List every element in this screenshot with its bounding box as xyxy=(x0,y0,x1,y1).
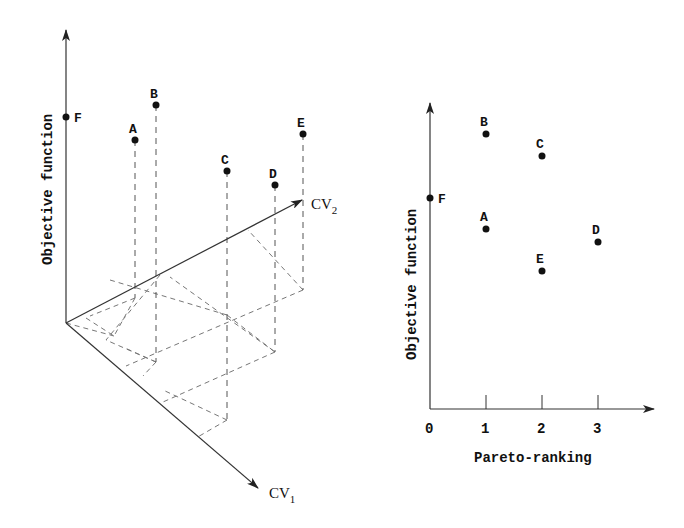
svg-text:B: B xyxy=(480,115,488,130)
cv2-axis xyxy=(66,200,302,323)
right-xlabel: Pareto-ranking xyxy=(474,450,592,466)
svg-text:D: D xyxy=(269,167,277,182)
point-F xyxy=(427,195,434,202)
tick-2: 2 xyxy=(537,421,545,437)
tick-1: 1 xyxy=(481,421,489,437)
point-E xyxy=(539,268,546,275)
left-points: F A B C D E xyxy=(63,87,307,189)
cv1-label: CV1 xyxy=(269,485,295,505)
svg-text:F: F xyxy=(74,111,82,126)
point-D xyxy=(595,239,602,246)
point-B xyxy=(483,131,490,138)
right-points: F B C A D E xyxy=(427,115,602,275)
svg-text:A: A xyxy=(480,210,488,225)
svg-text:A: A xyxy=(129,122,137,137)
point-E xyxy=(300,131,307,138)
left-ylabel: Objective function xyxy=(40,114,56,265)
left-3d-plot: Objective function CV2 CV1 F A B C D E xyxy=(40,30,337,505)
cv1-axis xyxy=(66,323,258,488)
svg-text:C: C xyxy=(536,137,544,152)
svg-text:C: C xyxy=(221,153,229,168)
svg-text:B: B xyxy=(150,87,158,102)
svg-text:E: E xyxy=(536,252,544,267)
point-B xyxy=(153,102,160,109)
tick-0: 0 xyxy=(425,421,433,437)
svg-text:F: F xyxy=(438,192,446,207)
point-A xyxy=(483,226,490,233)
tick-3: 3 xyxy=(593,421,601,437)
svg-text:D: D xyxy=(592,223,600,238)
right-pareto-plot: 0 1 2 3 Pareto-ranking Objective functio… xyxy=(404,103,654,466)
x-ticks xyxy=(486,395,598,409)
point-F xyxy=(63,114,70,121)
right-ylabel: Objective function xyxy=(404,209,420,360)
figure: Objective function CV2 CV1 F A B C D E xyxy=(0,0,684,528)
point-C xyxy=(224,168,231,175)
point-D xyxy=(272,182,279,189)
point-C xyxy=(539,153,546,160)
cv2-label: CV2 xyxy=(311,196,337,216)
svg-text:E: E xyxy=(297,116,305,131)
point-A xyxy=(132,137,139,144)
